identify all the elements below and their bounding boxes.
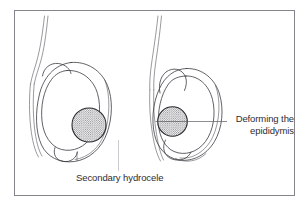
- left-tumour-lesion: [72, 108, 106, 142]
- label-deforming-epididymis: Deforming the epididymis: [222, 113, 294, 136]
- left-panel-testis: [29, 16, 118, 171]
- figure-root: Secondary hydrocele Deforming the epidid…: [0, 0, 308, 209]
- right-epididymis-tail: [164, 140, 191, 160]
- left-vas-deferens-inner: [33, 84, 42, 156]
- label-secondary-hydrocele: Secondary hydrocele: [76, 172, 163, 184]
- left-spermatic-cord-line-outer: [31, 16, 45, 84]
- left-spermatic-cord-line-inner: [34, 16, 48, 84]
- right-panel-testis: [150, 16, 227, 161]
- right-spermatic-cord-line-inner: [154, 16, 162, 90]
